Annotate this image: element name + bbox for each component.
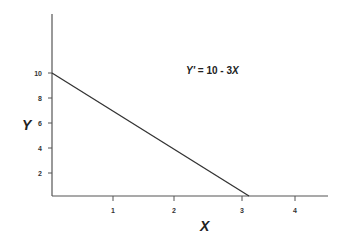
y-tick-label: 2 (38, 170, 42, 177)
y-tick-label: 8 (38, 95, 42, 102)
x-tick-label: 2 (172, 207, 176, 214)
regression-line (52, 73, 249, 196)
y-tick-labels: 10 8 6 4 2 (34, 70, 42, 177)
x-ticks (113, 196, 295, 201)
y-tick-label: 10 (34, 70, 42, 77)
equation-rhs: = 10 - 3 (195, 65, 232, 76)
equation-var: X (231, 65, 240, 76)
x-tick-label: 1 (111, 207, 115, 214)
y-tick-label: 6 (38, 120, 42, 127)
y-axis-title: Y (22, 117, 33, 133)
chart-canvas: 10 8 6 4 2 1 2 3 4 Y X Y' = 10 - 3X (0, 0, 342, 242)
x-tick-label: 4 (293, 207, 297, 214)
y-tick-label: 4 (38, 145, 42, 152)
x-axis-title: X (199, 218, 211, 234)
x-tick-label: 3 (240, 207, 244, 214)
equation-annotation: Y' = 10 - 3X (186, 65, 240, 76)
x-tick-labels: 1 2 3 4 (111, 207, 297, 214)
